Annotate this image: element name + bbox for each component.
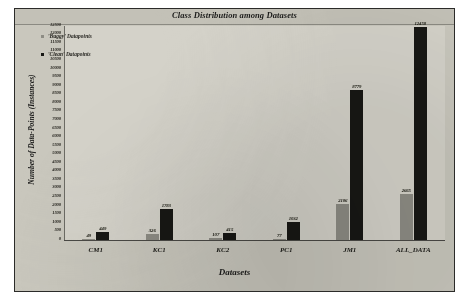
- y-tick-label: 3000: [52, 184, 61, 189]
- x-category-label: ALL_DATA: [382, 246, 446, 254]
- bar-value-label: 12458: [415, 21, 427, 26]
- bar-rect: [287, 222, 300, 240]
- bar-value-label: 2665: [402, 188, 411, 193]
- bar-rect: [223, 233, 236, 240]
- y-tick-label: 9000: [52, 82, 61, 87]
- chart-title: Class Distribution among Datasets: [15, 10, 454, 20]
- bar-rect: [82, 239, 95, 240]
- bar-value-label: 326: [149, 228, 156, 233]
- bar: 107: [209, 238, 222, 240]
- y-tick-label: 6500: [52, 125, 61, 130]
- legend-swatch-clean: [41, 53, 44, 56]
- bar: 77: [273, 239, 286, 240]
- y-tick-label: 5000: [52, 150, 61, 155]
- bar-rect: [273, 239, 286, 240]
- x-axis-categories: CM1KC1KC2PC1JM1ALL_DATA: [64, 246, 445, 260]
- x-category-label: KC1: [128, 246, 192, 254]
- x-category-label: KC2: [191, 246, 255, 254]
- legend-swatch-buggy: [41, 35, 44, 38]
- bar-value-label: 2106: [338, 198, 347, 203]
- bar-rect: [336, 204, 349, 240]
- bar-group: 266512458: [400, 27, 427, 240]
- y-tick-label: 6000: [52, 133, 61, 138]
- y-tick-label: 7500: [52, 107, 61, 112]
- bar-value-label: 8779: [352, 84, 361, 89]
- bar-group: 49449: [82, 232, 109, 240]
- bar-value-label: 77: [277, 233, 282, 238]
- bar-value-label: 107: [212, 232, 219, 237]
- y-tick-label: 2500: [52, 193, 61, 198]
- bar: 326: [146, 234, 159, 240]
- bar-value-label: 1032: [289, 216, 298, 221]
- x-category-label: CM1: [64, 246, 128, 254]
- bar: 1032: [287, 222, 300, 240]
- bar: 8779: [350, 90, 363, 240]
- bar-value-label: 449: [99, 226, 106, 231]
- x-category-label: PC1: [255, 246, 319, 254]
- x-category-label: JM1: [318, 246, 382, 254]
- y-tick-label: 8000: [52, 99, 61, 104]
- y-tick-label: 8500: [52, 90, 61, 95]
- bar: 2106: [336, 204, 349, 240]
- bar-rect: [96, 232, 109, 240]
- y-tick-label: 500: [54, 227, 61, 232]
- bar-rect: [414, 27, 427, 240]
- bar-value-label: 415: [226, 227, 233, 232]
- bar-group: 771032: [273, 222, 300, 240]
- y-tick-label: 0: [59, 236, 61, 241]
- bar-group: 21068779: [336, 90, 363, 240]
- bar: 415: [223, 233, 236, 240]
- bar: 49: [82, 239, 95, 240]
- y-tick-label: 12500: [50, 22, 61, 27]
- bars-container: 4944932617831074157710322106877926651245…: [64, 26, 445, 240]
- y-tick-label: 2000: [52, 202, 61, 207]
- y-tick-label: 4000: [52, 167, 61, 172]
- x-axis-title: Datasets: [15, 267, 454, 277]
- y-tick-label: 1500: [52, 210, 61, 215]
- x-axis-line: [64, 240, 445, 241]
- bar-group: 107415: [209, 233, 236, 240]
- y-tick-label: 3500: [52, 176, 61, 181]
- y-tick-label: 1000: [52, 219, 61, 224]
- bar-rect: [400, 194, 413, 240]
- chart-figure: Class Distribution among Datasets Number…: [14, 8, 455, 292]
- bar: 449: [96, 232, 109, 240]
- bar-rect: [350, 90, 363, 240]
- y-tick-label: 9500: [52, 73, 61, 78]
- bar-rect: [160, 209, 173, 240]
- y-tick-label: 5500: [52, 142, 61, 147]
- bar: 12458: [414, 27, 427, 240]
- y-tick-label: 4500: [52, 159, 61, 164]
- bar-group: 3261783: [146, 209, 173, 240]
- y-tick-label: 7000: [52, 116, 61, 121]
- bar-value-label: 49: [86, 233, 91, 238]
- bar: 2665: [400, 194, 413, 240]
- bar: 1783: [160, 209, 173, 240]
- bar-rect: [209, 238, 222, 240]
- bar-value-label: 1783: [162, 203, 171, 208]
- bar-rect: [146, 234, 159, 240]
